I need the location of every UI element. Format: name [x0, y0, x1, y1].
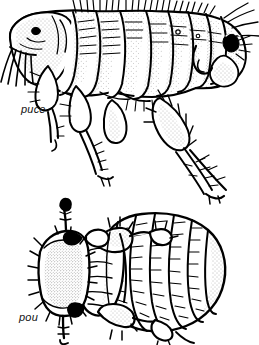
- flea-body-group: [1, 0, 259, 204]
- louse-thorax: [79, 233, 124, 316]
- flea-thorax-bristles: [73, 0, 119, 13]
- flea-rear-bristles: [224, 3, 259, 36]
- flea-mouthparts: [1, 49, 33, 86]
- louse-illustration: [0, 0, 259, 345]
- louse-antennae: [63, 208, 66, 338]
- louse-head-bristles: [28, 226, 97, 325]
- flea-eye: [32, 27, 41, 34]
- flea-clasper: [193, 46, 212, 74]
- flea-abdomen: [134, 11, 226, 99]
- flea-illustration: [0, 0, 259, 345]
- louse-leg-mid: [86, 230, 109, 247]
- louse-svg: [0, 0, 259, 345]
- louse-head: [39, 231, 90, 316]
- flea-body-outline: [10, 10, 246, 97]
- louse-claw-upper: [64, 232, 82, 245]
- illustration-page: puce pou: [0, 0, 259, 345]
- flea-svg: [0, 0, 259, 345]
- flea-hindleg: [153, 98, 212, 194]
- caption-pou: pou: [19, 311, 38, 323]
- flea-sensilium: [221, 32, 242, 54]
- louse-abdomen: [100, 213, 226, 331]
- caption-puce: puce: [21, 103, 46, 115]
- flea-head: [10, 12, 73, 85]
- louse-body-group: [28, 198, 225, 345]
- louse-claw-lower: [68, 303, 84, 317]
- flea-thorax: [60, 11, 125, 98]
- flea-midleg: [69, 86, 102, 174]
- louse-leg-hind-lower: [98, 304, 135, 327]
- louse-leg-front-upper: [96, 228, 133, 252]
- louse-abdomen-bands: [112, 214, 216, 332]
